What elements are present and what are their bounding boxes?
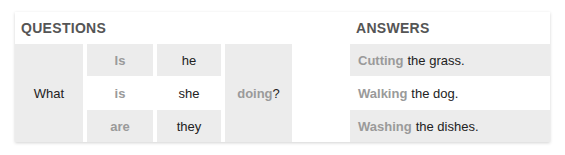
subject-text: they: [177, 119, 202, 134]
subject-text: he: [182, 53, 196, 68]
answer-rest: the dog.: [411, 86, 458, 101]
subject-cell: he: [157, 44, 221, 76]
aux-cell: are: [87, 110, 153, 142]
answer-rest: the dishes.: [416, 119, 479, 134]
aux-text: is: [115, 86, 126, 101]
aux-cell: is: [87, 77, 153, 109]
answer-verb: Washing: [358, 119, 412, 134]
subject-cell: she: [157, 77, 221, 109]
question-mark: ?: [273, 86, 280, 101]
answer-verb: Cutting: [358, 53, 403, 68]
question-word: What: [34, 86, 64, 101]
answers-header: ANSWERS: [356, 12, 430, 44]
aux-text: are: [110, 119, 130, 134]
answer-rest: the grass.: [407, 53, 464, 68]
answer-verb: Walking: [358, 86, 407, 101]
subject-text: she: [179, 86, 200, 101]
verb-highlight: doing: [237, 86, 272, 101]
answer-row: Washing the dishes.: [350, 110, 550, 142]
aux-text: Is: [115, 53, 126, 68]
grammar-table: QUESTIONS ANSWERS What Is is are he she …: [15, 12, 550, 142]
questions-header: QUESTIONS: [21, 12, 106, 44]
question-word-cell: What: [15, 44, 83, 142]
answer-row: Walking the dog.: [350, 77, 550, 109]
answer-row: Cutting the grass.: [350, 44, 550, 76]
subject-cell: they: [157, 110, 221, 142]
verb-cell: doing?: [225, 44, 292, 142]
aux-cell: Is: [87, 44, 153, 76]
